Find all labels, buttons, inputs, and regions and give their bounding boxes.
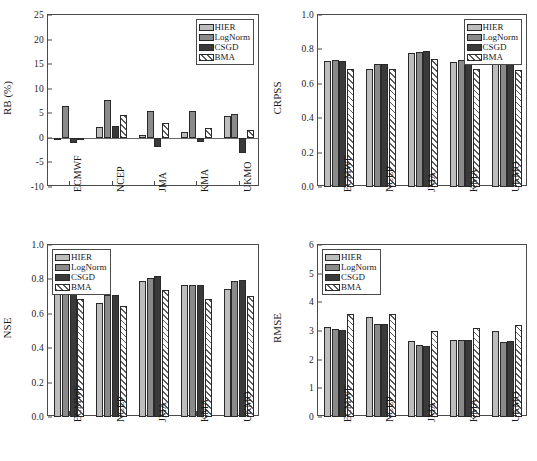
- x-tick-label-jma: JMA: [157, 172, 168, 192]
- x-tick-label-ncep: NCEP: [115, 166, 126, 192]
- legend-swatch-hier: [467, 24, 482, 31]
- legend-item-csgd[interactable]: CSGD: [199, 42, 251, 52]
- y-tick-mark: [48, 113, 52, 114]
- legend-label: HIER: [483, 23, 504, 32]
- bar-rb-ncep-lognorm: [104, 100, 111, 138]
- x-tick-label-ecmwf: ECMWF: [342, 385, 353, 422]
- bar-crpss-ukmo-lognorm: [500, 60, 507, 187]
- legend-nse: HIERLogNormCSGDBMA: [52, 249, 111, 295]
- x-tick-label-jma: JMA: [426, 402, 437, 422]
- bar-nse-ncep-hier: [96, 303, 103, 417]
- bar-rb-ncep-bma: [120, 115, 127, 138]
- y-tick-label: 3: [309, 326, 314, 336]
- y-tick-label: 0.6: [302, 79, 314, 89]
- x-tick-label-ecmwf: ECMWF: [72, 385, 83, 422]
- legend-item-lognorm[interactable]: LogNorm: [467, 32, 519, 42]
- legend-item-hier[interactable]: HIER: [55, 252, 107, 262]
- legend-label: BMA: [215, 53, 236, 62]
- y-tick-mark: [318, 388, 322, 389]
- y-tick-mark: [48, 88, 52, 89]
- y-tick-label: 0.2: [302, 148, 314, 158]
- bar-nse-kma-lognorm: [189, 285, 196, 417]
- legend-crpss: HIERLogNormCSGDBMA: [464, 19, 523, 65]
- bar-crpss-ncep-lognorm: [374, 64, 381, 187]
- y-tick-label: 0.0: [302, 182, 314, 192]
- bar-nse-ukmo-hier: [224, 289, 231, 417]
- legend-swatch-hier: [199, 24, 214, 31]
- legend-rmse: HIERLogNormCSGDBMA: [322, 249, 381, 295]
- legend-item-bma[interactable]: BMA: [199, 52, 251, 62]
- legend-item-hier[interactable]: HIER: [325, 252, 377, 262]
- y-tick-label: -5: [36, 157, 44, 167]
- bar-crpss-ncep-hier: [366, 69, 373, 187]
- y-tick-mark: [318, 118, 322, 119]
- y-tick-label: 0.4: [32, 343, 44, 353]
- bar-rb-ecmwf-bma: [77, 138, 84, 140]
- y-tick-mark: [48, 64, 52, 65]
- bar-rb-jma-hier: [139, 135, 146, 138]
- x-tick-label-ukmo: UKMO: [242, 391, 253, 422]
- legend-item-bma[interactable]: BMA: [325, 282, 377, 292]
- bar-rmse-ukmo-lognorm: [500, 342, 507, 417]
- legend-item-hier[interactable]: HIER: [467, 22, 519, 32]
- x-tick-label-ecmwf: ECMWF: [342, 155, 353, 192]
- legend-label: BMA: [71, 283, 92, 292]
- legend-label: LogNorm: [341, 263, 377, 272]
- x-tick-label-ukmo: UKMO: [510, 161, 521, 192]
- x-tick-label-kma: KMA: [468, 169, 479, 192]
- bar-rmse-ecmwf-hier: [324, 327, 331, 417]
- y-tick-label: 1.0: [302, 10, 314, 20]
- legend-label: BMA: [483, 53, 504, 62]
- chart-panel-rmse: 0123456HIERLogNormCSGDBMARMSEECMWFNCEPJM…: [317, 244, 527, 416]
- y-tick-mark: [318, 302, 322, 303]
- legend-item-csgd[interactable]: CSGD: [55, 272, 107, 282]
- legend-item-csgd[interactable]: CSGD: [467, 42, 519, 52]
- legend-item-lognorm[interactable]: LogNorm: [55, 262, 107, 272]
- bar-nse-jma-csgd: [154, 276, 161, 417]
- y-tick-label: 1: [309, 383, 314, 393]
- x-tick-label-ecmwf: ECMWF: [72, 155, 83, 192]
- x-tick-mark: [239, 181, 240, 185]
- y-tick-label: 4: [309, 297, 314, 307]
- legend-label: HIER: [71, 253, 92, 262]
- x-tick-mark: [69, 181, 70, 185]
- bar-rb-kma-csgd: [197, 138, 204, 142]
- chart-panel-crpss: 0.00.20.40.60.81.0HIERLogNormCSGDBMACRPS…: [317, 14, 527, 186]
- y-tick-label: 0: [309, 412, 314, 422]
- legend-item-hier[interactable]: HIER: [199, 22, 251, 32]
- y-tick-mark: [318, 417, 322, 418]
- y-axis-label-rmse: RMSE: [271, 268, 283, 388]
- bar-crpss-kma-hier: [450, 62, 457, 187]
- bar-crpss-jma-bma: [431, 59, 438, 187]
- y-tick-label: 0.8: [32, 274, 44, 284]
- bar-rb-ecmwf-hier: [54, 138, 61, 140]
- legend-label: HIER: [341, 253, 362, 262]
- bar-crpss-jma-lognorm: [416, 52, 423, 187]
- legend-swatch-csgd: [467, 44, 482, 51]
- bar-rmse-kma-hier: [450, 340, 457, 417]
- legend-label: LogNorm: [483, 33, 519, 42]
- legend-item-csgd[interactable]: CSGD: [325, 272, 377, 282]
- bar-rb-ukmo-bma: [247, 130, 254, 137]
- bar-rb-kma-lognorm: [189, 111, 196, 138]
- bar-rb-jma-bma: [162, 123, 169, 138]
- legend-item-bma[interactable]: BMA: [467, 52, 519, 62]
- y-axis-label-nse: NSE: [1, 268, 13, 388]
- bar-crpss-ukmo-hier: [492, 62, 499, 187]
- x-tick-mark: [196, 181, 197, 185]
- legend-swatch-lognorm: [199, 34, 214, 41]
- legend-item-bma[interactable]: BMA: [55, 282, 107, 292]
- x-tick-label-ukmo: UKMO: [510, 391, 521, 422]
- y-tick-label: 6: [309, 240, 314, 250]
- x-tick-mark: [154, 181, 155, 185]
- y-axis-label-rb: RB (%): [1, 38, 13, 158]
- y-tick-mark: [318, 187, 322, 188]
- y-tick-mark: [318, 152, 322, 153]
- y-axis-label-crpss: CRPSS: [271, 38, 283, 158]
- y-tick-label: 15: [34, 59, 44, 69]
- legend-swatch-lognorm: [467, 34, 482, 41]
- x-tick-label-ncep: NCEP: [115, 396, 126, 422]
- legend-item-lognorm[interactable]: LogNorm: [325, 262, 377, 272]
- y-tick-label: 0.6: [32, 309, 44, 319]
- legend-item-lognorm[interactable]: LogNorm: [199, 32, 251, 42]
